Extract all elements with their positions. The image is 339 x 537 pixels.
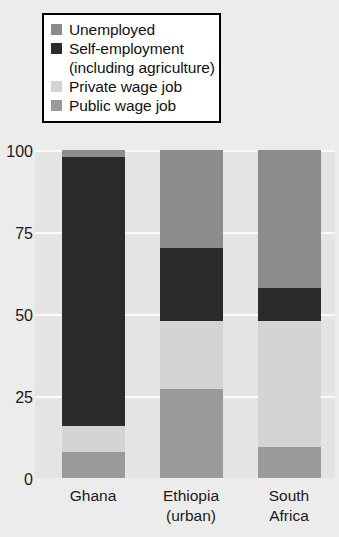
segment-south-africa-private-wage-job — [258, 321, 321, 447]
x-label-south-africa-line2: Africa — [246, 506, 332, 526]
x-label-south-africa-line1: South — [246, 486, 332, 506]
segment-ethiopia-self-employment — [160, 248, 223, 320]
x-label-south-africa: South Africa — [246, 486, 332, 526]
legend-label-self-employment: Self-employment — [69, 39, 184, 58]
x-label-ghana-line1: Ghana — [50, 486, 136, 506]
legend-label-unemployed: Unemployed — [69, 20, 155, 39]
y-axis: 100 75 50 25 0 — [0, 150, 33, 478]
legend-item-unemployed: Unemployed — [51, 20, 213, 39]
legend-item-private-wage-job: Private wage job — [51, 77, 213, 96]
legend-label-public-wage-job: Public wage job — [69, 96, 176, 115]
y-tick-75: 75 — [1, 226, 33, 242]
bar-ethiopia-urban — [160, 150, 223, 478]
x-label-ethiopia-urban: Ethiopia (urban) — [148, 486, 234, 526]
chart-legend: Unemployed Self-employment (including ag… — [42, 13, 221, 123]
legend-item-self-employment-sub: (including agriculture) — [51, 58, 213, 77]
y-tick-0: 0 — [1, 472, 33, 488]
legend-label-private-wage-job: Private wage job — [69, 77, 182, 96]
legend-swatch-self-employment — [51, 43, 62, 54]
plot-area — [35, 150, 335, 478]
segment-south-africa-unemployed — [258, 150, 321, 288]
segment-ethiopia-private-wage-job — [160, 321, 223, 390]
bar-ghana — [62, 150, 125, 478]
legend-swatch-private-wage-job — [51, 81, 62, 92]
legend-item-self-employment: Self-employment — [51, 39, 213, 58]
legend-label-self-employment-sub: (including agriculture) — [51, 58, 215, 77]
segment-ghana-self-employment — [62, 157, 125, 426]
legend-swatch-unemployed — [51, 24, 62, 35]
x-label-ethiopia-line1: Ethiopia — [148, 486, 234, 506]
x-label-ghana: Ghana — [50, 486, 136, 506]
y-tick-100: 100 — [1, 144, 33, 160]
segment-south-africa-public-wage-job — [258, 447, 321, 478]
segment-ethiopia-unemployed — [160, 150, 223, 248]
y-tick-50: 50 — [1, 308, 33, 324]
legend-swatch-public-wage-job — [51, 100, 62, 111]
segment-ethiopia-public-wage-job — [160, 389, 223, 478]
x-label-ethiopia-line2: (urban) — [148, 506, 234, 526]
segment-south-africa-self-employment — [258, 288, 321, 321]
y-tick-25: 25 — [1, 390, 33, 406]
bar-south-africa — [258, 150, 321, 478]
segment-ghana-private-wage-job — [62, 426, 125, 452]
x-axis: Ghana Ethiopia (urban) South Africa — [35, 486, 335, 536]
legend-item-public-wage-job: Public wage job — [51, 96, 213, 115]
segment-ghana-public-wage-job — [62, 452, 125, 478]
